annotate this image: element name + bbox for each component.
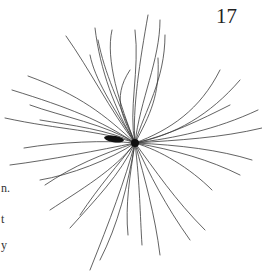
radiating-fibers-illustration: [0, 0, 262, 277]
